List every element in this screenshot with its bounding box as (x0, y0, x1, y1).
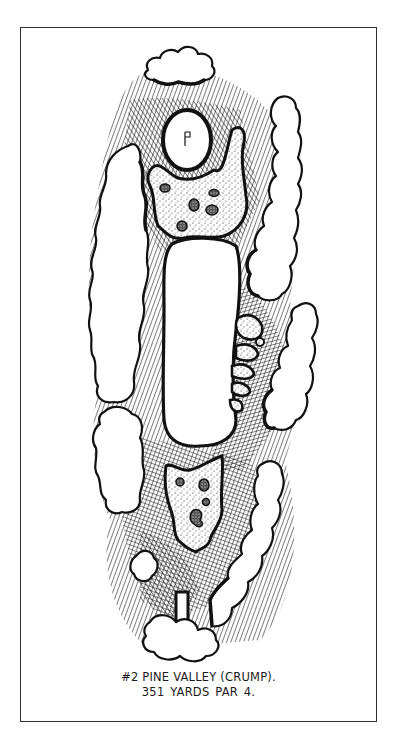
putting-green (163, 110, 211, 170)
figure-caption: #2 PINE VALLEY (CRUMP). 351 YARDS PAR 4. (20, 670, 377, 700)
caption-yardage-par: 351 YARDS PAR 4. (20, 685, 377, 700)
fairway (163, 238, 240, 446)
left-trees-lower (93, 407, 144, 513)
tee-box (176, 592, 188, 622)
golf-hole-illustration (0, 0, 398, 749)
caption-title: #2 PINE VALLEY (CRUMP). (20, 670, 377, 685)
